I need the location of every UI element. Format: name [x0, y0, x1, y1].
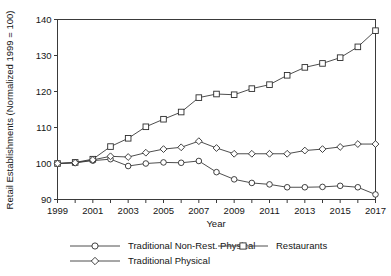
chart-legend: Traditional Non-Rest. PhysicalRestaurant… [70, 240, 327, 266]
x-axis-ticks: 1999200120032005200720092011201320152017 [47, 200, 386, 216]
marker-circle [143, 161, 149, 167]
marker-diamond [284, 150, 291, 157]
x-tick-label: 2015 [330, 205, 351, 216]
y-tick-label: 110 [36, 122, 51, 133]
x-tick-label: 1999 [47, 205, 68, 216]
marker-diamond [301, 147, 308, 154]
marker-diamond [319, 146, 326, 153]
marker-square [108, 144, 114, 150]
marker-circle [337, 183, 343, 189]
y-tick-label: 140 [36, 14, 52, 25]
marker-diamond [125, 154, 132, 161]
marker-square [240, 243, 246, 249]
marker-circle [125, 163, 131, 169]
marker-circle [302, 184, 308, 190]
chart-figure: 90100110120130140 1999200120032005200720… [0, 0, 391, 276]
marker-square [337, 55, 343, 61]
marker-square [355, 44, 361, 50]
x-tick-label: 2013 [294, 205, 315, 216]
series-line [58, 159, 376, 194]
marker-diamond [213, 145, 220, 152]
marker-square [284, 73, 290, 79]
marker-square [249, 86, 255, 92]
marker-square [231, 92, 237, 98]
marker-square [267, 82, 273, 88]
marker-square [320, 61, 326, 67]
marker-circle [231, 177, 237, 183]
legend-label: Restaurants [276, 240, 327, 251]
x-axis-title: Year [206, 218, 225, 229]
marker-diamond [354, 141, 361, 148]
marker-circle [161, 160, 167, 166]
marker-diamond [266, 150, 273, 157]
y-tick-label: 90 [41, 194, 52, 205]
marker-square [302, 65, 308, 71]
marker-circle [178, 160, 184, 166]
marker-square [178, 109, 184, 115]
marker-circle [92, 243, 98, 249]
y-axis-ticks: 90100110120130140 [36, 14, 58, 205]
marker-diamond [372, 141, 379, 148]
marker-circle [355, 184, 361, 190]
marker-circle [267, 182, 273, 188]
marker-diamond [337, 144, 344, 151]
marker-square [125, 136, 131, 142]
marker-diamond [248, 150, 255, 157]
marker-square [161, 116, 167, 122]
marker-diamond [195, 138, 202, 145]
marker-circle [320, 184, 326, 190]
x-tick-label: 2009 [224, 205, 245, 216]
series-layer [54, 28, 379, 197]
legend-label: Traditional Physical [128, 255, 210, 266]
marker-diamond [178, 144, 185, 151]
marker-circle [249, 180, 255, 186]
y-tick-label: 100 [36, 158, 52, 169]
marker-diamond [231, 150, 238, 157]
x-tick-label: 2011 [259, 205, 279, 216]
legend-item-diamond[interactable]: Traditional Physical [70, 255, 210, 266]
marker-square [373, 28, 379, 34]
marker-circle [284, 184, 290, 190]
y-tick-label: 120 [36, 86, 52, 97]
y-axis-title: Retail Establishments (Normalized 1999 =… [4, 11, 15, 210]
marker-square [196, 95, 202, 101]
line-chart: 90100110120130140 1999200120032005200720… [0, 0, 391, 276]
x-tick-label: 2003 [118, 205, 139, 216]
marker-square [143, 124, 149, 130]
x-tick-label: 2001 [82, 205, 103, 216]
x-tick-label: 2007 [188, 205, 209, 216]
marker-circle [196, 158, 202, 164]
x-tick-label: 2017 [365, 205, 386, 216]
series-circle [55, 156, 379, 197]
marker-diamond [91, 257, 98, 264]
marker-diamond [142, 149, 149, 156]
marker-diamond [160, 146, 167, 153]
marker-circle [214, 169, 220, 175]
marker-square [214, 91, 220, 97]
y-tick-label: 130 [36, 50, 52, 61]
x-tick-label: 2005 [153, 205, 174, 216]
marker-circle [373, 192, 379, 198]
